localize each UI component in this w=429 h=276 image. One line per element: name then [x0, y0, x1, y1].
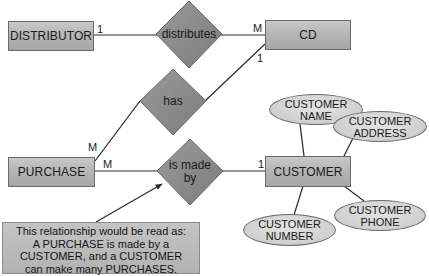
cardinality-cd-has: 1	[257, 52, 263, 64]
line-has-cd	[205, 44, 265, 101]
relationship-has: has	[140, 93, 206, 109]
cardinality-purchase-is-made-by: M	[103, 158, 112, 170]
entity-distributor: DISTRIBUTOR	[8, 21, 94, 51]
relationship-distributes: distributes	[156, 26, 222, 42]
attribute-customer-phone-line1: CUSTOMER	[349, 204, 412, 216]
attribute-customer-phone-line2: PHONE	[360, 216, 399, 228]
attribute-customer-name-line1: CUSTOMER	[285, 98, 348, 110]
attribute-customer-address-line1: CUSTOMER	[349, 115, 412, 127]
relationship-is-made-by-line2: by	[184, 172, 197, 185]
entity-cd: CD	[265, 20, 351, 50]
attribute-customer-address: CUSTOMER ADDRESS	[333, 111, 427, 142]
line-customer-phone	[344, 186, 364, 201]
cardinality-cd-distributes: M	[253, 22, 262, 34]
line-has-purchase	[95, 101, 140, 161]
attribute-customer-number-line2: NUMBER	[266, 230, 314, 242]
entity-purchase: PURCHASE	[8, 157, 95, 187]
callout-line-3: CUSTOMER, and a CUSTOMER	[3, 250, 199, 263]
attribute-customer-name-line2: NAME	[300, 110, 332, 122]
callout-line-2: A PURCHASE is made by a	[3, 238, 199, 251]
attribute-customer-number: CUSTOMER NUMBER	[243, 214, 336, 246]
attribute-customer-address-line2: ADDRESS	[353, 127, 406, 139]
entity-customer: CUSTOMER	[265, 156, 351, 187]
cardinality-customer: 1	[258, 158, 264, 170]
relationship-is-made-by: is made by	[157, 158, 223, 186]
line-customer-number	[294, 186, 303, 215]
callout-line-1: This relationship would be read as:	[3, 225, 199, 238]
line-customer-name	[300, 124, 304, 156]
attribute-customer-number-line1: CUSTOMER	[258, 218, 321, 230]
callout-arrow	[96, 184, 162, 222]
callout-line-4: can make many PURCHASES.	[3, 263, 199, 276]
callout-note: This relationship would be read as: A PU…	[2, 222, 200, 274]
cardinality-purchase-has: M	[88, 141, 97, 153]
attribute-customer-phone: CUSTOMER PHONE	[334, 200, 426, 231]
cardinality-distributor: 1	[97, 23, 103, 35]
